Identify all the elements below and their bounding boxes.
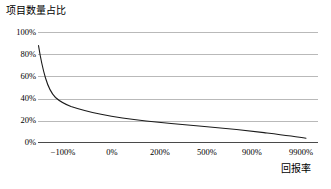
y-tick-label-100: 100% [0,28,36,37]
x-tick-label-neg100: −100% [51,147,76,157]
y-axis-title: 项目数量占比 [6,5,66,17]
x-tick-label-900: 900% [242,147,262,157]
y-tick-label-80: 80% [0,50,36,59]
x-tick-label-500: 500% [197,147,217,157]
gridline-20 [38,121,318,122]
y-tick-label-40: 40% [0,94,36,103]
y-tick-label-20: 20% [0,116,36,125]
x-tick-label-9900: 9900% [289,147,313,157]
y-tick-label-0: 0% [0,138,36,147]
chart-container: 项目数量占比 100% 80% 60% 40% 20% 0% −100% 0% … [0,0,331,189]
x-tick-label-0: 0% [106,147,117,157]
gridline-60 [38,76,318,77]
y-tick-label-60: 60% [0,72,36,81]
gridline-40 [38,99,318,100]
x-tick-label-200: 200% [150,147,170,157]
plot-area [38,32,318,143]
gridline-100 [38,32,318,33]
x-axis-title: 回报率 [281,163,311,175]
gridline-80 [38,54,318,55]
x-axis-line [38,142,318,143]
